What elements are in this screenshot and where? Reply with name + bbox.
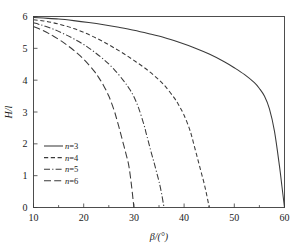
legend-label-n3: n=3: [65, 141, 78, 151]
legend-label-n6: n=6: [65, 176, 78, 186]
x-axis-label: β/(°): [149, 231, 169, 243]
x-tick-label: 30: [129, 212, 139, 223]
y-tick-label: 3: [23, 107, 28, 118]
legend-label-n4: n=4: [65, 153, 79, 163]
y-tick-label: 2: [23, 138, 28, 149]
x-tick-label: 10: [29, 212, 39, 223]
y-axis-label: H/l: [3, 105, 14, 119]
figure-background: [0, 0, 301, 245]
x-tick-label: 50: [229, 212, 239, 223]
y-tick-label: 1: [23, 170, 28, 181]
chart-figure: 102030405060 0123456 n=3n=4n=5n=6 β/(°) …: [0, 0, 301, 245]
y-tick-label: 5: [23, 43, 28, 54]
y-tick-label: 4: [23, 75, 28, 86]
x-tick-label: 40: [179, 212, 189, 223]
legend-label-n5: n=5: [65, 164, 78, 174]
plot-canvas: 102030405060 0123456 n=3n=4n=5n=6 β/(°) …: [0, 0, 301, 245]
y-tick-label: 0: [23, 202, 28, 213]
x-tick-label: 60: [280, 212, 290, 223]
y-tick-label: 6: [23, 11, 28, 22]
x-tick-label: 20: [79, 212, 89, 223]
